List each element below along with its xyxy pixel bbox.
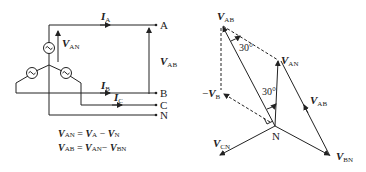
current-label-ia: IA <box>100 10 110 24</box>
sine-icon <box>29 72 36 75</box>
wire-b <box>16 76 156 93</box>
wire <box>49 65 62 71</box>
angle-label-bottom: 30° <box>262 86 276 97</box>
node-dot <box>155 92 158 95</box>
equation-vab: VAB = VAN− VBN <box>58 142 126 153</box>
sine-icon <box>46 47 53 50</box>
phasor-label-neg-vb: −VB <box>202 87 221 101</box>
wire-c <box>70 76 156 105</box>
phasor-label-vab-top: VAB <box>217 10 234 24</box>
phasor-vbn-line <box>275 126 329 155</box>
equation-van: VAN = VA − VN <box>58 128 120 139</box>
angle-arc-bottom <box>267 104 276 109</box>
node-dot <box>155 104 158 107</box>
node-dot <box>155 114 158 117</box>
angle-label-top: 30° <box>239 42 253 53</box>
three-phase-diagram: A B C N IA IB IC VAN VAB VAN = VA − VN V… <box>0 0 366 172</box>
current-label-ib: IB <box>100 79 110 93</box>
phasor-label-vbn: VBN <box>336 150 353 164</box>
phasor-label-van: VAN <box>281 54 298 68</box>
phasor-label-vab-side: VAB <box>310 94 327 108</box>
voltage-label-van: VAN <box>62 37 79 51</box>
angle-arc-top <box>231 36 240 41</box>
phasor-label-n: N <box>272 130 280 142</box>
node-label-b: B <box>160 87 167 99</box>
node-label-a: A <box>160 19 168 31</box>
sine-icon <box>63 72 70 75</box>
node-label-n: N <box>160 109 168 121</box>
vab-mid-arrow <box>304 105 308 113</box>
wire <box>36 65 49 71</box>
phasor-label-vcn: VCN <box>213 137 230 151</box>
dashed-neg-vb <box>224 94 270 122</box>
voltage-label-vab: VAB <box>160 55 177 69</box>
node-dot <box>155 24 158 27</box>
circuit-schematic <box>16 25 156 115</box>
node-dots <box>155 24 158 117</box>
